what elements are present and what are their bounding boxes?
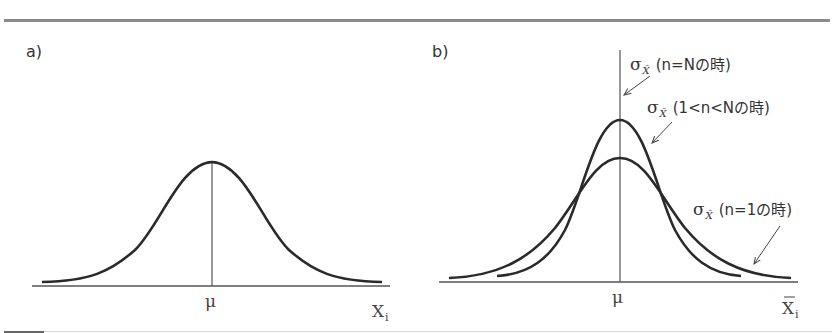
arrow-icon [652, 122, 672, 143]
svg-text:σX̄(n=Nの時): σX̄(n=Nの時) [630, 54, 731, 76]
svg-text:σX̄(n=1の時): σX̄(n=1の時) [693, 199, 792, 221]
tall-curve [497, 120, 741, 276]
x-bar-axis-label: Xi [782, 298, 799, 321]
annotation-n-equals-1: σX̄(n=1の時) [693, 199, 792, 264]
arrow-icon [754, 226, 780, 264]
arrow-icon [624, 76, 650, 95]
panel-b-label: b) [432, 42, 448, 61]
panel-a-label: a) [26, 42, 42, 61]
diagram: a) μ Xi b) μ Xi σX̄(n=Nの時) σX̄(1<n<Nの時) … [0, 0, 832, 333]
panel-b: b) μ Xi σX̄(n=Nの時) σX̄(1<n<Nの時) σX̄(n=1の… [432, 42, 799, 321]
annotation-n-equals-N: σX̄(n=Nの時) [624, 54, 731, 95]
x-axis-label: Xi [372, 301, 389, 324]
mu-label: μ [612, 287, 623, 307]
annotation-1-lt-n-lt-N: σX̄(1<n<Nの時) [647, 97, 770, 143]
panel-a: a) μ Xi [26, 42, 390, 324]
mu-label: μ [205, 291, 216, 311]
svg-text:σX̄(1<n<Nの時): σX̄(1<n<Nの時) [647, 97, 770, 119]
